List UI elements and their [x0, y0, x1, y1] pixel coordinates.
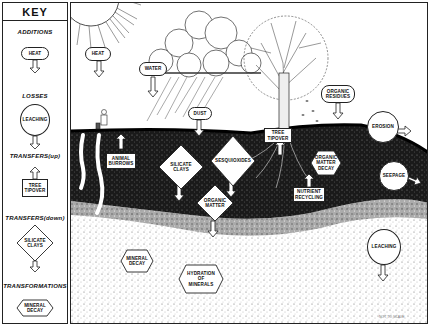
key-heading-transfers-up: TRANSFERS(up)	[3, 153, 67, 159]
sun-icon	[71, 3, 141, 49]
transfer-up-animal-burrows: ANIMAL BURROWS	[106, 153, 136, 169]
transformation-organic-matter-decay: ORGANIC MATTER DECAY	[311, 151, 341, 175]
key-example-silicate-clays: SILICATE CLAYS	[19, 236, 51, 250]
addition-water: WATER	[139, 62, 167, 76]
key-panel: KEY ADDITIONS HEAT LOSSES LEACHING TRANS…	[2, 2, 68, 324]
transfer-down-organic-matter: ORGANIC MATTER	[199, 196, 231, 210]
addition-organic-residues: ORGANIC RESIDUES	[321, 85, 355, 103]
loss-leaching: LEACHING	[367, 229, 401, 265]
loss-seepage: SEEPAGE	[379, 161, 409, 191]
transfer-up-nutrient-recycling: NUTRIENT RECYCLING	[293, 187, 325, 202]
key-heading-losses: LOSSES	[3, 93, 67, 99]
not-to-scale-note: NOT TO SCALE	[379, 315, 404, 319]
transformation-hydration-of-minerals: HYDRATION OF MINERALS	[179, 268, 223, 290]
transfer-up-tree-tipover: TREE TIPOVER	[264, 128, 292, 143]
key-example-tree-tipover: TREE TIPOVER	[22, 179, 48, 197]
addition-dust: DUST	[188, 107, 212, 120]
key-example-leaching: LEACHING	[20, 104, 50, 136]
key-arrows-icon	[3, 3, 69, 325]
farmer-icon	[96, 110, 107, 130]
leaves-icon	[302, 100, 319, 122]
soil-scene: HEAT WATER DUST ORGANIC RESIDUES EROSION…	[70, 2, 428, 324]
transfer-down-sesquioxides: SESQUIOXIDES	[211, 155, 255, 167]
loss-erosion: EROSION	[367, 111, 399, 143]
key-example-mineral-decay: MINERAL DECAY	[19, 301, 51, 315]
key-heading-transformations: TRANSFORMATIONS	[3, 283, 67, 289]
transfer-down-silicate-clays: SILICATE CLAYS	[165, 160, 197, 174]
key-heading-transfers-down: TRANSFERS(down)	[3, 215, 67, 221]
addition-heat: HEAT	[85, 47, 111, 61]
transformation-mineral-decay: MINERAL DECAY	[121, 253, 153, 269]
